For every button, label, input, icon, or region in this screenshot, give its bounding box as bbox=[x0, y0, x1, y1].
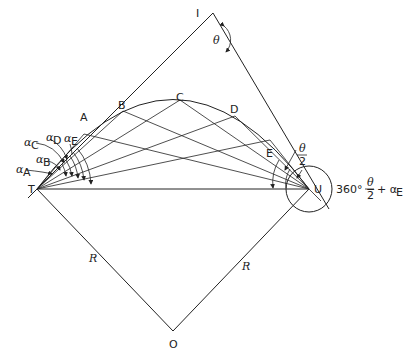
svg-text:D: D bbox=[53, 134, 61, 147]
point-label-I: I bbox=[196, 7, 199, 20]
point-label-O: O bbox=[169, 338, 178, 351]
radius-line-left bbox=[37, 189, 173, 331]
svg-text:A: A bbox=[23, 166, 31, 179]
radius-label-right: R bbox=[241, 260, 250, 273]
point-label-E: E bbox=[266, 147, 273, 160]
radius-label-left: R bbox=[88, 252, 97, 265]
point-label-B: B bbox=[118, 99, 126, 112]
chords-from-U bbox=[84, 100, 309, 189]
svg-text:E: E bbox=[71, 135, 78, 148]
svg-text:2: 2 bbox=[367, 189, 374, 202]
point-label-D: D bbox=[230, 103, 238, 116]
svg-text:θ: θ bbox=[367, 176, 374, 189]
point-label-U: U bbox=[314, 183, 322, 196]
svg-text:+ α: + α bbox=[377, 183, 397, 196]
point-label-T: T bbox=[27, 183, 35, 196]
point-label-C: C bbox=[176, 91, 184, 104]
svg-text:C: C bbox=[31, 139, 39, 152]
circular-curve-diagram: I T U O A B C D E R R θ θ 2 α A α B α C … bbox=[0, 0, 411, 359]
alpha-labels: α A α B α C α D α E bbox=[16, 131, 78, 179]
angle-formula: 360° − θ 2 + α E bbox=[336, 176, 403, 202]
svg-text:E: E bbox=[396, 186, 403, 199]
point-label-A: A bbox=[80, 111, 88, 124]
theta-half-numerator: θ bbox=[299, 142, 306, 155]
theta-arc bbox=[224, 26, 231, 52]
theta-half-denominator: 2 bbox=[299, 155, 306, 168]
svg-text:B: B bbox=[43, 156, 51, 169]
theta-label: θ bbox=[213, 34, 220, 47]
radius-line-right bbox=[173, 189, 309, 331]
